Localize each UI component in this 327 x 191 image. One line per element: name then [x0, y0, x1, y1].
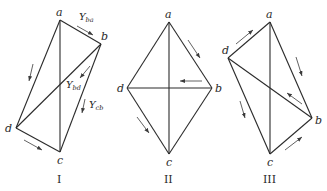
- vertex-label-a: a: [165, 8, 172, 21]
- edge-bc: [169, 88, 212, 154]
- arrow-icon: [29, 64, 33, 81]
- edge-cd: [16, 128, 60, 152]
- vertex-label-b: b: [215, 82, 222, 95]
- vertex-label-d: d: [117, 82, 124, 95]
- edge-da: [228, 22, 270, 58]
- arrow-icon: [77, 26, 93, 35]
- arrow-icon: [296, 57, 302, 76]
- vertex-label-b: b: [315, 114, 322, 127]
- edge-da: [16, 20, 60, 128]
- diagram-iii: a b c d III: [222, 8, 322, 186]
- diagram-i-edges: [16, 20, 101, 152]
- diagram-i-vertex-labels: a b c d: [5, 6, 108, 167]
- diagram-iii-vertex-labels: a b c d: [222, 8, 322, 169]
- diagram-iii-edges: [228, 22, 312, 154]
- diagram-i-flow-labels: Yba Ybd Ycb: [66, 11, 103, 112]
- caption-ii: II: [164, 173, 173, 186]
- vertex-label-c: c: [267, 156, 273, 169]
- edge-bd: [16, 44, 101, 128]
- diagram-i-arrows: [24, 26, 93, 150]
- edge-da: [127, 22, 169, 88]
- arrow-icon: [24, 140, 42, 150]
- vertex-label-b: b: [101, 30, 108, 43]
- diagram-i: a b c d Yba Ybd Ycb I: [5, 6, 108, 186]
- edge-bc: [270, 118, 312, 154]
- caption-iii: III: [263, 173, 276, 186]
- flow-label-y-cb: Ycb: [89, 99, 103, 112]
- vertex-label-d: d: [222, 44, 229, 57]
- diagram-ii: a b c d II: [117, 8, 222, 186]
- edge-bc: [60, 44, 101, 152]
- diagram-ii-edges: [127, 22, 212, 154]
- figure-canvas: a b c d Yba Ybd Ycb I: [0, 0, 327, 191]
- vertex-label-a: a: [56, 6, 63, 19]
- arrow-icon: [236, 30, 253, 44]
- vertex-label-c: c: [57, 154, 63, 167]
- arrow-icon: [188, 40, 200, 58]
- vertex-label-c: c: [166, 156, 172, 169]
- flow-label-y-ba: Yba: [79, 11, 94, 24]
- edge-ab: [60, 20, 101, 44]
- vertex-label-a: a: [266, 8, 273, 21]
- arrow-icon: [82, 99, 85, 113]
- edge-cd: [127, 88, 169, 154]
- flow-label-y-bd: Ybd: [66, 79, 81, 92]
- arrow-icon: [240, 101, 245, 118]
- caption-i: I: [57, 173, 61, 186]
- vertex-label-d: d: [5, 122, 12, 135]
- diagram-iii-arrows: [236, 30, 302, 150]
- edge-ab: [169, 22, 212, 88]
